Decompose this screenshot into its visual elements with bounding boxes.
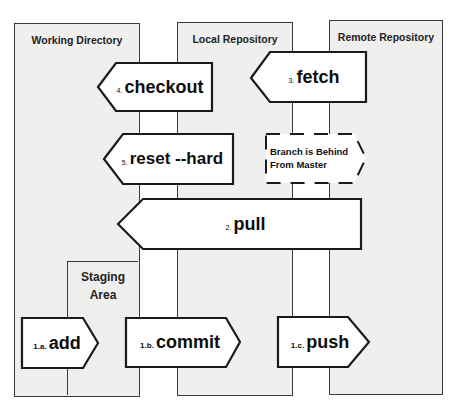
add-arrow[interactable] xyxy=(22,318,98,368)
commit-arrow[interactable] xyxy=(126,318,240,367)
fetch-arrow[interactable] xyxy=(251,52,366,102)
push-arrow[interactable] xyxy=(278,317,369,367)
checkout-arrow[interactable] xyxy=(98,63,212,111)
pull-arrow[interactable] xyxy=(118,199,361,249)
arrow-shapes-layer xyxy=(0,0,460,419)
branch-behind-dashed-shape xyxy=(266,134,366,183)
reset-hard-arrow[interactable] xyxy=(104,134,233,184)
